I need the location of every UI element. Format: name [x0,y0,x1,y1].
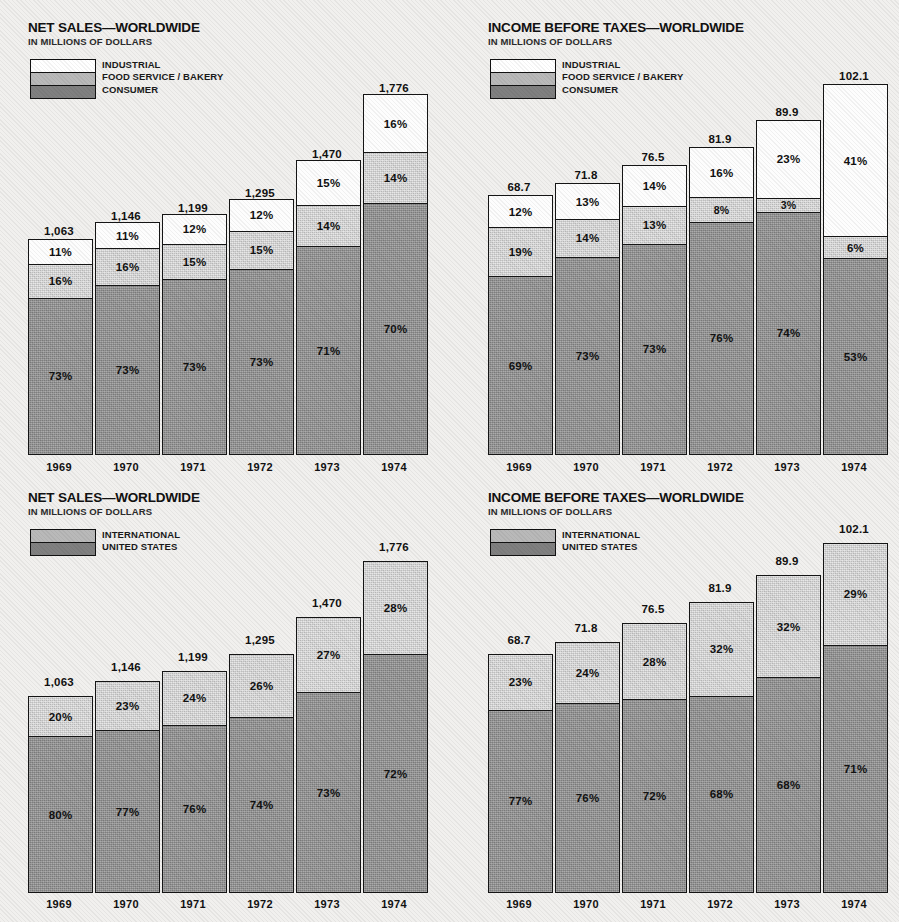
segment-pct: 77% [116,806,140,818]
bar-total-label: 68.7 [479,181,559,193]
legend-swatch-industrial [31,60,95,73]
bar-1973[interactable]: 23% 3% 74% [756,120,821,455]
segment-food-service-bakery: 14% [364,152,427,202]
segment-united-states: 80% [29,736,92,892]
segment-pct: 71% [844,763,868,775]
segment-pct: 73% [49,370,73,382]
bar-1972[interactable]: 26% 74% [229,654,294,893]
segment-food-service-bakery: 8% [690,197,753,222]
segment-pct: 23% [116,700,140,712]
bar-1972[interactable]: 32% 68% [689,602,754,893]
segment-food-service-bakery: 15% [230,231,293,269]
segment-pct: 11% [116,230,139,242]
segment-united-states: 76% [556,703,619,892]
bar-1972[interactable]: 16% 8% 76% [689,147,754,455]
legend-label-list: INTERNATIONAL UNITED STATES [562,529,640,554]
segment-consumer: 73% [623,244,686,454]
bar-1969[interactable]: 20% 80% [28,696,93,893]
segment-pct: 12% [509,206,533,218]
segment-pct: 74% [777,327,801,339]
bar-1972[interactable]: 12% 15% 73% [229,199,294,455]
segment-pct: 23% [509,676,533,688]
bar-1973[interactable]: 27% 73% [296,617,361,893]
bar-total-label: 1,063 [19,676,99,688]
segment-united-states: 74% [230,717,293,892]
legend-swatch [490,529,556,556]
legend-label-united-states: UNITED STATES [562,541,640,553]
bar-1970[interactable]: 24% 76% [555,642,620,893]
plot-area: 1,063 20% 80% 1969 1,146 23% 77% 1970 1,… [28,570,458,893]
bar-1973[interactable]: 15% 14% 71% [296,160,361,455]
legend-swatch-food-service-bakery [491,73,555,86]
segment-pct: 19% [509,246,533,258]
segment-pct: 73% [317,787,341,799]
bar-1969[interactable]: 23% 77% [488,654,553,893]
segment-pct: 73% [576,350,600,362]
segment-united-states: 73% [297,692,360,892]
chart-legend: INTERNATIONAL UNITED STATES [30,529,180,556]
segment-pct: 76% [710,332,734,344]
bar-1971[interactable]: 14% 13% 73% [622,165,687,455]
legend-label-united-states: UNITED STATES [102,541,180,553]
segment-pct: 15% [317,177,341,189]
legend-swatch [30,59,96,99]
bar-1970[interactable]: 23% 77% [95,681,160,893]
bar-1974[interactable]: 28% 72% [363,561,428,893]
segment-consumer: 73% [163,279,226,454]
bar-1973[interactable]: 32% 68% [756,575,821,893]
segment-pct: 72% [384,768,408,780]
bar-1969[interactable]: 12% 19% 69% [488,195,553,455]
segment-industrial: 14% [623,166,686,206]
bar-1971[interactable]: 24% 76% [162,671,227,893]
segment-international: 23% [489,655,552,710]
bar-total-label: 76.5 [613,151,693,163]
legend-swatch-food-service-bakery [31,73,95,86]
segment-pct: 11% [49,246,72,258]
segment-food-service-bakery: 16% [96,248,159,285]
plot-area: 68.7 23% 77% 1969 71.8 24% 76% 1970 76.5… [488,570,898,893]
segment-food-service-bakery: 19% [489,227,552,276]
chart-panel-net-sales-geography: NET SALES—WORLDWIDE IN MILLIONS OF DOLLA… [28,490,458,922]
chart-subtitle: IN MILLIONS OF DOLLARS [28,506,458,517]
segment-food-service-bakery: 13% [623,206,686,243]
segment-pct: 12% [250,209,274,221]
segment-international: 26% [230,655,293,717]
segment-pct: 80% [49,809,73,821]
segment-pct: 23% [777,153,801,165]
segment-industrial: 13% [556,184,619,219]
bar-1971[interactable]: 28% 72% [622,623,687,893]
bar-1969[interactable]: 11% 16% 73% [28,239,93,455]
bar-1974[interactable]: 16% 14% 70% [363,94,428,455]
bar-total-label: 1,063 [19,225,99,237]
chart-panel-net-sales-segment: NET SALES—WORLDWIDE IN MILLIONS OF DOLLA… [28,20,458,475]
bar-1974[interactable]: 41% 6% 53% [823,84,888,455]
legend-swatch [490,59,556,99]
bar-1970[interactable]: 13% 14% 73% [555,183,620,455]
chart-title: INCOME BEFORE TAXES—WORLDWIDE [488,490,898,505]
segment-consumer: 53% [824,258,887,454]
legend-label-list: INDUSTRIAL FOOD SERVICE / BAKERY CONSUME… [562,59,683,96]
segment-pct: 69% [509,360,533,372]
segment-pct: 14% [384,172,408,184]
bar-1971[interactable]: 12% 15% 73% [162,214,227,455]
bar-total-label: 1,470 [287,597,367,609]
bar-total-label: 1,199 [153,651,233,663]
bar-1970[interactable]: 11% 16% 73% [95,222,160,455]
segment-pct: 73% [643,343,667,355]
segment-food-service-bakery: 15% [163,244,226,280]
bar-total-label: 1,776 [354,541,434,553]
legend-swatch-united-states [31,543,95,555]
chart-legend: INDUSTRIAL FOOD SERVICE / BAKERY CONSUME… [490,59,683,99]
segment-international: 32% [690,603,753,696]
segment-pct: 6% [847,242,864,254]
segment-international: 24% [163,672,226,725]
segment-pct: 28% [384,602,408,614]
segment-pct: 28% [643,656,667,668]
segment-united-states: 77% [489,710,552,893]
segment-industrial: 12% [230,200,293,231]
segment-industrial: 15% [297,161,360,205]
bar-total-label: 1,470 [287,148,367,160]
segment-united-states: 71% [824,645,887,892]
bar-1974[interactable]: 29% 71% [823,543,888,893]
segment-consumer: 73% [29,298,92,454]
